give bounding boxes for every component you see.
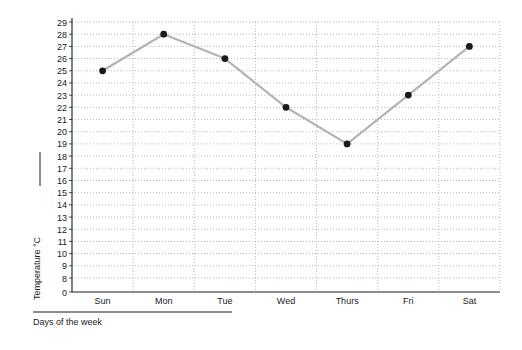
y-tick-label: 25 xyxy=(57,66,67,76)
y-tick-label: 13 xyxy=(57,213,67,223)
x-tick-label: Tue xyxy=(217,296,232,306)
data-point-marker xyxy=(222,55,229,62)
y-tick-label: 11 xyxy=(58,237,67,247)
y-tick-label: 10 xyxy=(57,249,67,259)
chart-canvas: 0891011121314151617181920212223242526272… xyxy=(0,0,522,350)
x-tick-label: Mon xyxy=(155,296,173,306)
data-point-marker xyxy=(405,92,412,99)
y-tick-label: 17 xyxy=(57,164,67,174)
y-tick-label: 0 xyxy=(62,288,67,298)
y-axis-title: Temperature °C xyxy=(32,236,42,300)
y-tick-label: 19 xyxy=(57,139,67,149)
y-tick-label: 24 xyxy=(57,78,67,88)
y-tick-label: 14 xyxy=(57,200,67,210)
x-tick-label: Fri xyxy=(403,296,414,306)
line-chart: 0891011121314151617181920212223242526272… xyxy=(0,0,522,350)
chart-background xyxy=(0,0,522,350)
y-tick-label: 26 xyxy=(57,54,67,64)
y-tick-label: 16 xyxy=(57,176,67,186)
y-tick-label: 9 xyxy=(62,261,67,271)
y-tick-label: 15 xyxy=(57,188,67,198)
y-tick-label: 18 xyxy=(57,152,67,162)
x-axis-title: Days of the week xyxy=(33,317,103,327)
y-tick-label: 8 xyxy=(62,274,67,284)
x-tick-label: Sun xyxy=(95,296,111,306)
data-point-marker xyxy=(344,141,351,148)
x-tick-label: Sat xyxy=(463,296,477,306)
y-tick-label: 20 xyxy=(57,127,67,137)
y-tick-label: 22 xyxy=(57,103,67,113)
y-tick-label: 23 xyxy=(57,91,67,101)
x-tick-label: Wed xyxy=(277,296,295,306)
y-tick-label: 29 xyxy=(57,18,67,28)
x-tick-label: Thurs xyxy=(336,296,360,306)
y-tick-label: 21 xyxy=(57,115,67,125)
data-point-marker xyxy=(283,104,290,111)
y-tick-label: 27 xyxy=(57,42,67,52)
data-point-marker xyxy=(466,43,473,50)
y-tick-label: 28 xyxy=(57,30,67,40)
data-point-marker xyxy=(99,67,106,74)
data-point-marker xyxy=(160,31,167,38)
y-tick-label: 12 xyxy=(57,225,67,235)
